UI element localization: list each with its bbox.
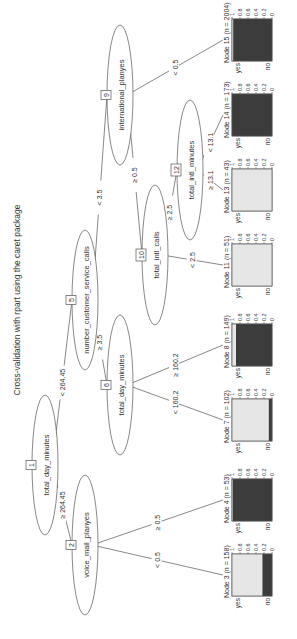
axis-tick-label: 1 [229, 238, 235, 241]
leaf-bar-yes [232, 554, 262, 596]
leaf-bar-no [269, 399, 272, 441]
axis-tick-label: 0.2 [261, 158, 267, 166]
category-yes-label: yes [234, 287, 242, 298]
node-id: 2 [68, 543, 75, 547]
axis-tick-label: 0.4 [253, 83, 259, 91]
node-variable: total_day_minutes [117, 354, 126, 415]
category-no-label: no [264, 138, 271, 146]
leaf-bar-no [262, 554, 272, 596]
edge-split-label: ≥ 13.1 [207, 170, 214, 190]
leaf-node-11: Node 11 (n = 51)00.20.40.60.81yesno [223, 233, 275, 298]
axis-tick-label: 0.8 [237, 388, 243, 396]
edge-split-label: < 0.5 [172, 60, 179, 76]
axis-tick-label: 0.6 [245, 83, 251, 91]
axis-tick-label: 1 [229, 88, 235, 91]
category-no-label: no [264, 368, 271, 376]
figure-title: Cross-validation with rpart using the ca… [12, 204, 22, 395]
leaf-node-15: Node 15 (n = 2004)00.20.40.60.81yesno [223, 2, 275, 73]
category-no-label: no [264, 523, 271, 531]
node-id: 5 [68, 298, 75, 302]
edge-split-label: ≥ 0.5 [154, 515, 161, 531]
axis-tick-label: 0.8 [237, 8, 243, 16]
edge-split-label: < 13.1 [207, 133, 214, 153]
node-variable: total_day_minutes [42, 434, 51, 495]
axis-tick-label: 0.2 [261, 468, 267, 476]
axis-tick-label: 0.6 [245, 388, 251, 396]
category-yes-label: yes [234, 522, 242, 533]
leaf-node-8: Node 8 (n = 149)00.20.40.60.81yesno [223, 313, 275, 378]
leaf-bar-no [232, 94, 272, 136]
axis-tick-label: 0.6 [245, 158, 251, 166]
axis-tick-label: 0.6 [245, 468, 251, 476]
axis-tick-label: 0 [269, 88, 275, 91]
category-no-label: no [264, 443, 271, 451]
axis-tick-label: 0.8 [237, 543, 243, 551]
edge-split-label: < 0.5 [154, 552, 161, 568]
leaf-bar-yes [232, 169, 272, 211]
node-id: 6 [103, 383, 110, 387]
axis-tick-label: 0.6 [245, 233, 251, 241]
axis-tick-label: 0.2 [261, 8, 267, 16]
category-yes-label: yes [234, 597, 242, 608]
category-yes-label: yes [234, 137, 242, 148]
inner-node-5: 5number_customer_service_calls [66, 230, 98, 370]
axis-tick-label: 0 [269, 13, 275, 16]
edge-split-label: ≥ 0.5 [131, 167, 138, 183]
category-yes-label: yes [234, 442, 242, 453]
axis-tick-label: 0.4 [253, 158, 259, 166]
node-id: 1 [28, 463, 35, 467]
inner-node-1: 1total_day_minutes [26, 395, 58, 535]
axis-tick-label: 0.2 [261, 83, 267, 91]
edge-split-label: ≥ 3.5 [96, 335, 103, 351]
axis-tick-label: 0.6 [245, 543, 251, 551]
leaf-title: Node 7 (n = 102) [223, 390, 231, 443]
axis-tick-label: 0 [269, 318, 275, 321]
inner-node-6: 6total_day_minutes [101, 315, 133, 455]
axis-tick-label: 0 [269, 548, 275, 551]
node-variable: total_intl_calls [152, 231, 161, 278]
axis-tick-label: 1 [229, 163, 235, 166]
edge-split-label: ≥ 2.5 [166, 205, 173, 221]
axis-tick-label: 0.6 [245, 8, 251, 16]
axis-tick-label: 0.2 [261, 313, 267, 321]
node-variable: voice_mail_planyes [82, 512, 91, 578]
edge-split-label: < 264.45 [59, 369, 66, 397]
node-variable: total_intl_minutes [187, 141, 196, 200]
axis-tick-label: 0.4 [253, 8, 259, 16]
axis-tick-label: 1 [229, 473, 235, 476]
leaf-bar-yes [232, 399, 269, 441]
leaf-bar-no [236, 324, 272, 366]
axis-tick-label: 0.8 [237, 158, 243, 166]
leaf-title: Node 4 (n = 53) [223, 474, 231, 523]
axis-tick-label: 0 [269, 393, 275, 396]
axis-tick-label: 0.6 [245, 313, 251, 321]
axis-tick-label: 0.8 [237, 233, 243, 241]
category-no-label: no [264, 288, 271, 296]
category-yes-label: yes [234, 367, 242, 378]
leaf-bar-no [233, 19, 272, 61]
axis-tick-label: 0.8 [237, 468, 243, 476]
edge-split-label: ≥ 264.45 [59, 491, 66, 518]
category-no-label: no [264, 63, 271, 71]
axis-tick-label: 0.4 [253, 543, 259, 551]
leaf-node-14: Node 14 (n = 173)00.20.40.60.81yesno [223, 81, 275, 148]
axis-tick-label: 1 [229, 393, 235, 396]
leaf-title: Node 11 (n = 51) [223, 236, 231, 288]
axis-tick-label: 0 [269, 473, 275, 476]
node-id: 10 [138, 251, 145, 259]
axis-tick-label: 0.4 [253, 233, 259, 241]
leaf-title: Node 15 (n = 2004) [223, 2, 231, 63]
inner-node-9: 9international_planyes [101, 25, 133, 165]
inner-node-12: 12total_intl_minutes [171, 100, 203, 240]
axis-tick-label: 0.2 [261, 543, 267, 551]
leaf-title: Node 3 (n = 158) [223, 545, 231, 598]
node-id: 9 [103, 93, 110, 97]
category-no-label: no [264, 213, 271, 221]
leaf-bar-yes [232, 244, 272, 286]
edge-split-label: < 3.5 [96, 190, 103, 206]
axis-tick-label: 0.8 [237, 83, 243, 91]
axis-tick-label: 0.4 [253, 313, 259, 321]
edge-split-label: < 2.5 [189, 252, 196, 268]
leaf-node-13: Node 13 (n = 43)00.20.40.60.81yesno [223, 158, 275, 223]
node-variable: number_customer_service_calls [82, 246, 91, 354]
